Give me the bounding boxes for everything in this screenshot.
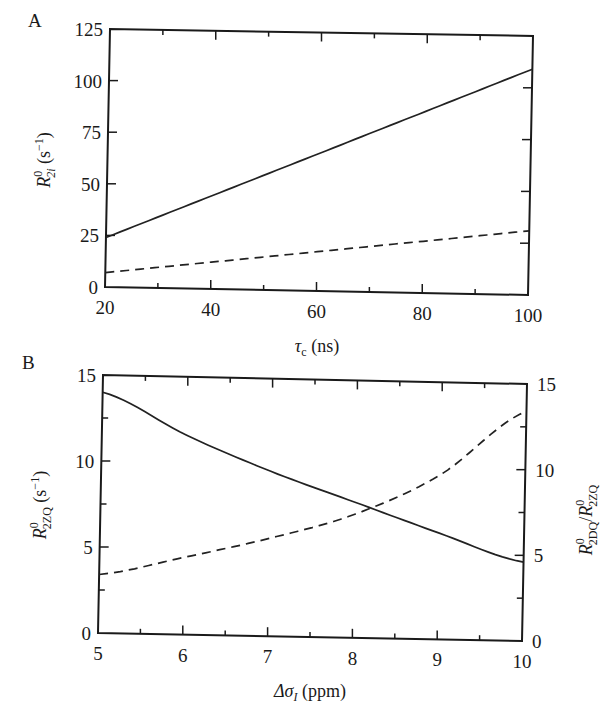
dashed-series-line xyxy=(99,411,526,574)
plot-frame xyxy=(98,375,527,641)
panel-label-a: A xyxy=(28,10,42,31)
x-tick-label: 80 xyxy=(413,303,432,324)
panel-b-right-y-axis-label: R02DQ/R02ZQ xyxy=(573,484,600,556)
panel-a-x-axis-label: τc (ns) xyxy=(295,336,339,359)
y-tick-label: 5 xyxy=(83,537,93,558)
x-tick-label: 20 xyxy=(96,297,115,318)
y-tick-label: 50 xyxy=(81,174,100,195)
figure: A B 204060801000255075100125 τc (ns) R02… xyxy=(0,0,607,716)
x-tick-label: 7 xyxy=(263,646,273,667)
x-tick-label: 40 xyxy=(201,299,220,320)
y-tick-label: 25 xyxy=(80,225,99,246)
panel-b-left-y-axis-label: R02ZQ (s−1) xyxy=(27,471,54,540)
solid-series-line xyxy=(103,392,524,562)
y-tick-label: 125 xyxy=(75,19,104,40)
y-tick-label: 100 xyxy=(74,71,103,92)
y-right-tick-label: 10 xyxy=(535,460,554,481)
y-tick-label: 75 xyxy=(82,122,101,143)
y-right-tick-label: 0 xyxy=(532,631,542,652)
y-tick-label: 15 xyxy=(77,365,96,386)
panel-b-plot: 5678910005510101515 xyxy=(75,365,556,672)
panel-a-y-axis-label: R02i (s−1) xyxy=(31,132,58,189)
panel-b-x-axis-label: ΔσI (ppm) xyxy=(273,681,346,704)
y-tick-label: 0 xyxy=(89,277,99,298)
x-tick-label: 5 xyxy=(93,643,103,664)
y-right-tick-label: 15 xyxy=(537,374,556,395)
x-tick-label: 6 xyxy=(178,645,188,666)
y-tick-label: 10 xyxy=(75,451,94,472)
panel-a-plot: 204060801000255075100125 xyxy=(74,19,543,326)
x-tick-label: 9 xyxy=(432,649,442,670)
plot-frame xyxy=(105,29,533,295)
x-tick-label: 8 xyxy=(348,648,358,669)
x-tick-label: 60 xyxy=(307,301,326,322)
y-right-tick-label: 5 xyxy=(534,545,544,566)
y-tick-label: 0 xyxy=(82,623,92,644)
x-tick-label: 100 xyxy=(514,305,543,326)
x-tick-label: 10 xyxy=(513,651,532,672)
panel-label-b: B xyxy=(22,352,35,373)
solid-series-line xyxy=(106,69,532,237)
dashed-series-line xyxy=(105,231,529,273)
